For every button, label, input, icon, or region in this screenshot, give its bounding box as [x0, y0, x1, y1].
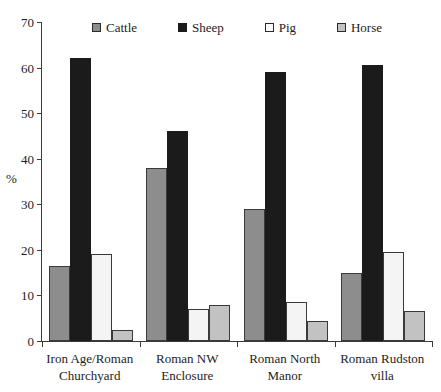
- x-axis-label: Roman Rudstonvilla: [334, 350, 432, 384]
- x-axis-tick: [42, 341, 43, 347]
- x-axis-labels: Iron Age/RomanChurchyardRoman NWEnclosur…: [41, 350, 431, 384]
- bar-sheep: [265, 72, 286, 341]
- bar-group-bars: [146, 22, 230, 341]
- y-axis-tick-label: 30: [21, 198, 34, 211]
- bar-group: [237, 22, 335, 341]
- bar-horse: [404, 311, 425, 341]
- x-axis-label: Roman NorthManor: [236, 350, 334, 384]
- bar-groups: [42, 22, 432, 341]
- bar-group: [335, 22, 433, 341]
- bar-chart: Cattle Sheep Pig Horse % 010203040506070…: [0, 0, 441, 392]
- y-axis-tick-label: 20: [21, 243, 34, 256]
- bar-sheep: [167, 131, 188, 341]
- bar-group: [140, 22, 238, 341]
- bar-cattle: [146, 168, 167, 341]
- x-axis-label-line: Enclosure: [141, 367, 235, 384]
- y-axis-tick-label: 10: [21, 289, 34, 302]
- plot-area: 010203040506070: [41, 22, 432, 342]
- bar-group-bars: [341, 22, 425, 341]
- bar-horse: [307, 321, 328, 342]
- bar-horse: [112, 330, 133, 341]
- x-axis-tick: [237, 341, 238, 347]
- x-axis-label-line: Churchyard: [43, 367, 137, 384]
- x-axis-label-line: Manor: [238, 367, 332, 384]
- bar-pig: [91, 254, 112, 341]
- x-axis-label-line: Roman NW: [156, 351, 218, 366]
- y-axis-tick-label: 0: [28, 335, 35, 348]
- bar-group-bars: [49, 22, 133, 341]
- x-axis-label-line: Roman North: [249, 351, 320, 366]
- bar-group: [42, 22, 140, 341]
- x-axis-label: Roman NWEnclosure: [139, 350, 237, 384]
- x-axis-tick: [432, 341, 433, 347]
- bar-cattle: [49, 266, 70, 341]
- x-axis-tick: [335, 341, 336, 347]
- bar-sheep: [70, 58, 91, 341]
- bar-cattle: [341, 273, 362, 341]
- y-axis-title: %: [6, 172, 17, 185]
- bar-group-bars: [244, 22, 328, 341]
- x-axis-label-line: Iron Age/Roman: [46, 351, 133, 366]
- bar-sheep: [362, 65, 383, 341]
- y-axis-tick-label: 60: [21, 61, 34, 74]
- y-axis-tick-label: 70: [21, 16, 34, 29]
- bar-cattle: [244, 209, 265, 341]
- bar-pig: [188, 309, 209, 341]
- y-axis-tick-label: 50: [21, 107, 34, 120]
- x-axis-tick: [140, 341, 141, 347]
- x-axis-label: Iron Age/RomanChurchyard: [41, 350, 139, 384]
- bar-horse: [209, 305, 230, 341]
- x-axis-label-line: Roman Rudston: [340, 351, 424, 366]
- bar-pig: [383, 252, 404, 341]
- bar-pig: [286, 302, 307, 341]
- x-axis-label-line: villa: [336, 367, 430, 384]
- y-axis-tick-label: 40: [21, 152, 34, 165]
